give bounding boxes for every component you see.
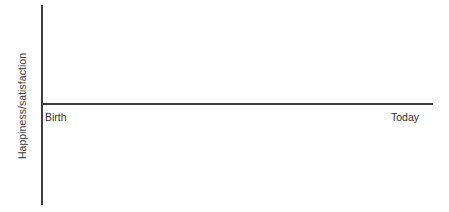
- y-axis-title: Happiness/satisfaction: [14, 0, 30, 212]
- x-axis-start-label: Birth: [45, 111, 67, 124]
- x-axis-line: [41, 103, 433, 105]
- y-axis-line: [41, 5, 43, 205]
- x-axis-end-label: Today: [391, 111, 419, 124]
- chart-canvas: Happiness/satisfaction Birth Today: [0, 0, 449, 212]
